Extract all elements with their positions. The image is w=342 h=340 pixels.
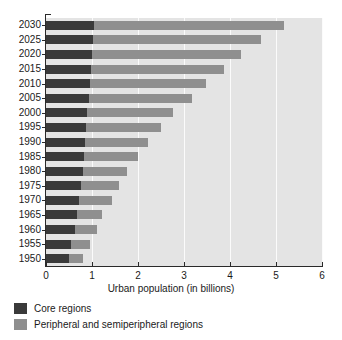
- bar-segment-core-regions: [46, 210, 77, 219]
- x-axis-title: Urban population (in billions): [0, 283, 342, 295]
- bar-row: [46, 210, 322, 219]
- x-axis-tick-label: 1: [82, 270, 102, 281]
- legend-label: Peripheral and semiperipheral regions: [34, 319, 203, 330]
- bar-row: [46, 79, 322, 88]
- legend-swatch-core-regions: [14, 303, 27, 314]
- y-axis-tick-label: 1995: [0, 122, 41, 132]
- y-axis-tick-label: 1960: [0, 225, 41, 235]
- x-axis-tick-label: 5: [266, 270, 286, 281]
- x-axis-tick-label: 2: [128, 270, 148, 281]
- bar-segment-core-regions: [46, 138, 85, 147]
- bar-segment-peripheral-regions: [75, 225, 97, 234]
- bar-segment-peripheral-regions: [94, 21, 284, 30]
- bar-row: [46, 108, 322, 117]
- x-axis-tick-label: 4: [220, 270, 240, 281]
- bar-segment-peripheral-regions: [83, 167, 128, 176]
- y-axis-tick-label: 1950: [0, 254, 41, 264]
- y-axis-tick-mark: [42, 259, 46, 260]
- y-axis-tick-mark: [42, 230, 46, 231]
- bar-segment-peripheral-regions: [87, 108, 173, 117]
- bar-row: [46, 21, 322, 30]
- bar-segment-peripheral-regions: [79, 196, 112, 205]
- bar-segment-core-regions: [46, 94, 89, 103]
- y-axis-tick-mark: [42, 54, 46, 55]
- y-axis-tick-label: 1990: [0, 137, 41, 147]
- bar-segment-core-regions: [46, 240, 71, 249]
- bar-segment-core-regions: [46, 152, 84, 161]
- x-axis-tick-mark: [322, 262, 323, 267]
- y-axis-tick-label: 2005: [0, 93, 41, 103]
- bar-segment-core-regions: [46, 35, 93, 44]
- y-axis-tick-mark: [42, 215, 46, 216]
- y-axis-tick-label: 2010: [0, 79, 41, 89]
- y-axis-tick-mark: [42, 40, 46, 41]
- x-axis-tick-mark: [230, 262, 231, 267]
- bar-segment-core-regions: [46, 167, 83, 176]
- bar-row: [46, 225, 322, 234]
- bar-segment-core-regions: [46, 79, 90, 88]
- y-axis-tick-label: 2030: [0, 20, 41, 30]
- bar-row: [46, 167, 322, 176]
- bar-segment-peripheral-regions: [91, 65, 224, 74]
- bar-segment-core-regions: [46, 225, 75, 234]
- bar-segment-peripheral-regions: [86, 123, 161, 132]
- bar-segment-core-regions: [46, 196, 79, 205]
- y-axis-tick-label: 2025: [0, 35, 41, 45]
- bar-segment-peripheral-regions: [89, 94, 192, 103]
- bar-segment-peripheral-regions: [93, 35, 261, 44]
- x-axis-tick-mark: [92, 262, 93, 267]
- bar-segment-core-regions: [46, 181, 81, 190]
- y-axis-tick-mark: [42, 98, 46, 99]
- y-axis-tick-mark: [42, 244, 46, 245]
- legend-item: Peripheral and semiperipheral regions: [14, 316, 334, 332]
- y-axis-tick-label: 1970: [0, 195, 41, 205]
- bar-row: [46, 94, 322, 103]
- y-axis-tick-mark: [42, 157, 46, 158]
- chart-legend: Core regionsPeripheral and semiperiphera…: [14, 300, 334, 332]
- legend-item: Core regions: [14, 300, 334, 316]
- bar-segment-core-regions: [46, 50, 92, 59]
- y-axis-tick-label: 1980: [0, 166, 41, 176]
- y-axis-tick-mark: [42, 200, 46, 201]
- bar-segment-core-regions: [46, 123, 86, 132]
- y-axis-tick-label: 2015: [0, 64, 41, 74]
- x-axis-tick-label: 0: [36, 270, 56, 281]
- bar-segment-peripheral-regions: [77, 210, 102, 219]
- legend-swatch-peripheral-regions: [14, 319, 27, 330]
- bar-segment-core-regions: [46, 21, 94, 30]
- x-axis-tick-mark: [138, 262, 139, 267]
- bar-row: [46, 35, 322, 44]
- bar-segment-peripheral-regions: [69, 254, 83, 263]
- x-axis-tick-label: 3: [174, 270, 194, 281]
- gridline: [322, 18, 323, 266]
- x-axis-tick-mark: [184, 262, 185, 267]
- bar-row: [46, 152, 322, 161]
- bar-row: [46, 240, 322, 249]
- y-axis-tick-label: 1955: [0, 239, 41, 249]
- y-axis-tick-label: 1975: [0, 181, 41, 191]
- bar-row: [46, 50, 322, 59]
- y-axis-tick-mark: [42, 84, 46, 85]
- bar-row: [46, 123, 322, 132]
- y-axis-tick-mark: [42, 186, 46, 187]
- y-axis-tick-mark: [42, 69, 46, 70]
- bar-segment-peripheral-regions: [85, 138, 148, 147]
- bar-segment-core-regions: [46, 65, 91, 74]
- bar-segment-peripheral-regions: [84, 152, 138, 161]
- plot-area: [46, 18, 322, 266]
- bar-segment-core-regions: [46, 254, 69, 263]
- y-axis-tick-mark: [42, 142, 46, 143]
- bar-row: [46, 65, 322, 74]
- bar-segment-core-regions: [46, 108, 87, 117]
- bar-segment-peripheral-regions: [71, 240, 90, 249]
- y-axis-tick-label: 2000: [0, 108, 41, 118]
- y-axis-tick-mark: [42, 127, 46, 128]
- bar-row: [46, 138, 322, 147]
- bar-row: [46, 181, 322, 190]
- bar-row: [46, 196, 322, 205]
- bar-segment-peripheral-regions: [92, 50, 241, 59]
- x-axis-tick-label: 6: [312, 270, 332, 281]
- bar-segment-peripheral-regions: [81, 181, 119, 190]
- y-axis-tick-label: 2020: [0, 49, 41, 59]
- y-axis-tick-mark: [42, 171, 46, 172]
